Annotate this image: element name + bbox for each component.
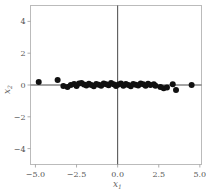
y-axis-ticks: −4−2024	[14, 17, 31, 153]
data-point	[36, 79, 42, 85]
y-tick-label: 0	[20, 81, 25, 90]
data-point	[189, 82, 195, 88]
data-point	[173, 87, 179, 93]
data-point	[55, 77, 61, 83]
y-axis-label: x2	[2, 85, 13, 94]
data-point	[164, 84, 170, 90]
x-tick-label: −2.5	[67, 170, 86, 179]
x-tick-label: 5.0	[193, 170, 206, 179]
y-tick-label: −4	[14, 145, 26, 154]
svg-text:x1: x1	[113, 179, 122, 190]
x-axis-label: x1	[113, 179, 122, 190]
x-axis-ticks: −5.0−2.50.02.55.0	[26, 165, 206, 179]
scatter-chart: −5.0−2.50.02.55.0 −4−2024 x1 x2	[0, 0, 206, 193]
x-tick-label: 2.5	[152, 170, 165, 179]
x-tick-label: 0.0	[111, 170, 124, 179]
x-tick-label: −5.0	[26, 170, 45, 179]
data-point	[170, 81, 176, 87]
y-tick-label: 2	[20, 49, 25, 58]
y-tick-label: 4	[20, 17, 25, 26]
svg-text:x2: x2	[2, 85, 13, 94]
y-tick-label: −2	[14, 113, 26, 122]
